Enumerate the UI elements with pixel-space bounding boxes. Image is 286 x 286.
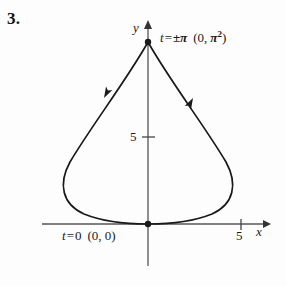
origin-point-coords: (0, 0) [87,228,115,243]
y-axis-label: y [133,21,139,34]
x-axis-tick-label-5: 5 [236,229,243,242]
problem-number: 3. [7,10,20,27]
origin-param-value: 0 [75,228,82,243]
x-axis-arrowhead [263,220,271,228]
y-axis-arrowhead [144,20,152,29]
cusp-point-open: (0, [193,30,207,45]
y-axis-tick-label-5: 5 [130,130,137,143]
arrow-left-branch [101,87,113,100]
cusp-point-pi: π [207,30,217,45]
figure-canvas [0,0,286,286]
cusp-dot [145,39,151,45]
parametric-curve-figure: 3. y x 5 5 t=±π(0,π2) t=0(0, 0) [0,0,286,286]
cusp-param-value: ±π [173,30,187,45]
cusp-equals: = [164,30,173,45]
cusp-point-annotation: t=±π(0,π2) [160,30,226,44]
origin-dot [145,221,151,227]
curve-right-branch [148,42,233,224]
origin-point-annotation: t=0(0, 0) [62,229,116,242]
x-axis-label: x [256,225,262,238]
origin-equals: = [66,228,75,243]
cusp-point-close: ) [222,30,226,45]
